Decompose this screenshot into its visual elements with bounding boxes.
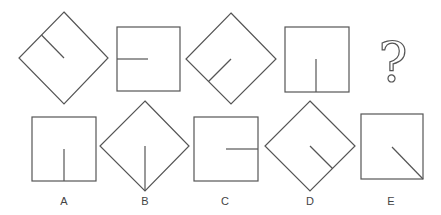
sequence-figure-3 xyxy=(186,13,276,104)
option-a-figure[interactable] xyxy=(32,117,96,181)
sequence-figure-1 xyxy=(19,12,108,104)
diamond-shape xyxy=(186,13,276,104)
option-a-label[interactable]: A xyxy=(54,195,74,207)
option-c-figure[interactable] xyxy=(194,117,258,181)
puzzle-canvas xyxy=(0,0,441,215)
inner-line xyxy=(42,35,65,58)
sequence-figure-2 xyxy=(117,27,180,91)
question-mark-icon: ? xyxy=(376,34,410,92)
option-d-label[interactable]: D xyxy=(300,195,320,207)
option-d-figure[interactable] xyxy=(265,101,355,191)
puzzle-figure: ? A B C D E xyxy=(0,0,441,215)
square-shape xyxy=(285,27,349,92)
inner-line xyxy=(310,146,333,169)
option-b-figure[interactable] xyxy=(100,101,189,191)
sequence-figure-4 xyxy=(285,27,349,92)
inner-line xyxy=(209,59,232,82)
option-e-figure[interactable] xyxy=(361,114,423,179)
option-e-label[interactable]: E xyxy=(381,195,401,207)
option-b-label[interactable]: B xyxy=(135,195,155,207)
inner-line xyxy=(392,147,423,179)
option-c-label[interactable]: C xyxy=(215,195,235,207)
